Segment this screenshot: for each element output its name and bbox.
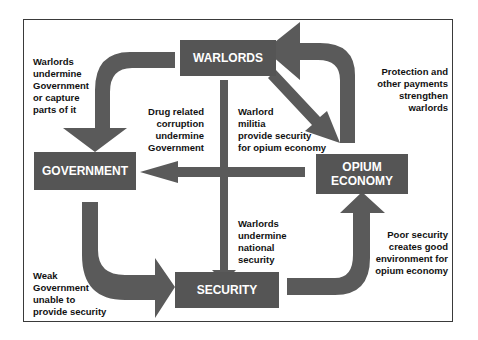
arrow-warlords-to-security bbox=[212, 80, 236, 282]
label-protection-payments: Protection and other payments strengthen… bbox=[376, 66, 448, 114]
arrow-security-to-opium bbox=[287, 192, 385, 295]
node-security: SECURITY bbox=[175, 272, 279, 308]
label-warlords-undermine-government: Warlords undermine Government or capture… bbox=[33, 56, 89, 116]
label-warlords-undermine-security: Warlords undermine national security bbox=[238, 218, 287, 266]
node-government: GOVERNMENT bbox=[34, 152, 136, 190]
label-weak-government: Weak Government unable to provide securi… bbox=[33, 270, 106, 318]
node-warlords: WARLORDS bbox=[180, 40, 276, 76]
label-militia-security: Warlord militia provide security for opi… bbox=[238, 106, 326, 154]
label-drug-corruption: Drug related corruption undermine Govern… bbox=[140, 106, 204, 154]
label-poor-security: Poor security creates good environment f… bbox=[372, 229, 448, 277]
node-opium-economy: OPIUM ECONOMY bbox=[316, 154, 408, 194]
